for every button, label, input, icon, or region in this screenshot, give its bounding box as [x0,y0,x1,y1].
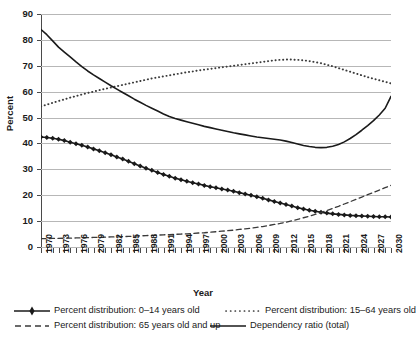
series-marker [359,213,364,218]
x-axis-tick-label: 1973 [62,234,71,253]
series-marker [365,214,370,219]
series-marker [266,197,271,202]
series-marker [377,214,382,219]
y-axis-tick-labels: 0102030405060708090 [3,14,37,247]
legend-label: Dependency ratio (total) [250,321,349,330]
y-axis-tick-mark [37,14,41,15]
solid-line-key-icon [210,320,246,332]
x-axis-tick-label: 2024 [360,234,369,253]
series-marker [284,202,289,207]
series-marker [324,211,329,216]
x-axis-tick-label: 2003 [237,234,246,253]
y-axis-tick-label: 40 [3,138,33,148]
series-marker [342,212,347,217]
x-axis-tick-label: 2018 [325,234,334,253]
legend-entry-15-64: Percent distribution: 15–64 years old [225,303,416,318]
series-marker [336,212,341,217]
x-axis-tick-mark [391,248,392,253]
x-axis-tick-label: 2027 [377,234,386,253]
y-axis-tick-mark [37,221,41,222]
legend-entry-0-14: Percent distribution: 0–14 years old [14,303,200,318]
y-axis-tick-label: 30 [3,164,33,174]
series-marker [249,193,254,198]
legend-row: Percent distribution: 65 years old and u… [14,318,396,333]
series-marker [103,150,108,155]
series-marker [173,176,178,181]
series-marker [231,189,236,194]
x-axis-tick-label: 1976 [80,234,89,253]
series-marker [56,137,61,142]
y-axis-tick-label: 70 [3,61,33,71]
series-marker [214,185,219,190]
x-axis-tick-label: 2006 [255,234,264,253]
series-marker [41,134,44,139]
series-marker [219,187,224,192]
x-axis-tick-labels: 1970197319762079198219851988199119941997… [41,253,391,287]
y-axis-tick-mark [37,40,41,41]
series-marker [254,194,259,199]
series-marker [79,143,84,148]
series-marker [354,213,359,218]
y-axis-tick-mark [37,143,41,144]
legend-label: Percent distribution: 65 years old and u… [54,321,220,330]
series-marker [114,154,119,159]
y-axis-tick-label: 20 [3,190,33,200]
legend-label: Percent distribution: 15–64 years old [265,306,416,315]
y-axis-tick-mark [37,92,41,93]
series-marker [196,182,201,187]
y-axis-tick-mark [37,195,41,196]
x-axis-tick-label: 2000 [220,234,229,253]
series-marker [301,206,306,211]
series-marker [161,172,166,177]
series-marker [389,214,392,219]
series-marker [74,141,79,146]
series-layer [41,14,391,247]
x-axis-title: Year [0,287,406,298]
series-marker [126,159,131,164]
series-marker [167,174,172,179]
series-marker [383,214,388,219]
series-marker [138,163,143,168]
series-marker [97,148,102,153]
y-axis-tick-label: 60 [3,87,33,97]
series-marker [225,188,230,193]
x-axis-tick-label: 1982 [115,234,124,253]
series-marker [243,191,248,196]
series-marker [278,200,283,205]
legend-entry-65-up: Percent distribution: 65 years old and u… [14,318,220,333]
x-axis-tick-label: 1997 [202,234,211,253]
x-axis-tick-label: 1970 [45,234,54,253]
series-marker [190,180,195,185]
x-axis-tick-label: 2079 [97,234,106,253]
x-axis-tick-label: 1985 [132,234,141,253]
series-marker [208,184,213,189]
series-marker [184,179,189,184]
x-axis-tick-label: 2021 [342,234,351,253]
series-line-pct_15_64 [41,60,391,107]
y-axis-tick-label: 0 [3,242,33,252]
dashed-line-key-icon [14,320,50,332]
series-marker [307,208,312,213]
series-marker [62,138,67,143]
series-marker [330,211,335,216]
y-axis-tick-mark [37,169,41,170]
y-axis-tick-label: 80 [3,35,33,45]
series-marker [348,213,353,218]
series-line-dependency_ratio [41,30,391,148]
y-axis-tick-mark [37,66,41,67]
series-marker [50,136,55,141]
series-marker [44,135,49,140]
y-axis-tick-label: 10 [3,216,33,226]
series-marker [272,199,277,204]
series-marker [109,152,114,157]
legend-entry-dependency-ratio: Dependency ratio (total) [210,318,349,333]
x-axis-tick-label: 2030 [395,234,404,253]
series-marker [371,214,376,219]
series-marker [144,166,149,171]
series-marker [149,168,154,173]
x-axis-tick-label: 1988 [150,234,159,253]
x-axis-tick-label: 1994 [185,234,194,253]
series-marker [179,177,184,182]
legend-row: Percent distribution: 0–14 years old Per… [14,303,396,318]
